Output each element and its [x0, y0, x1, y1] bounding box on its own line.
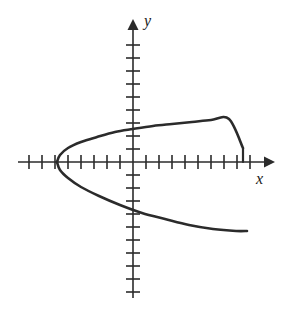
parabola-lower-branch [57, 162, 247, 231]
parabola-upper-branch [57, 117, 243, 162]
graph-canvas [0, 0, 294, 310]
y-axis-arrowhead [128, 19, 139, 30]
x-axis-arrowhead [264, 157, 275, 168]
x-axis-label: x [256, 171, 263, 187]
parabola-figure: y x [0, 0, 294, 310]
y-axis-label: y [144, 13, 151, 29]
y-axis-group [126, 19, 140, 298]
parabola-curve-group [57, 117, 247, 231]
